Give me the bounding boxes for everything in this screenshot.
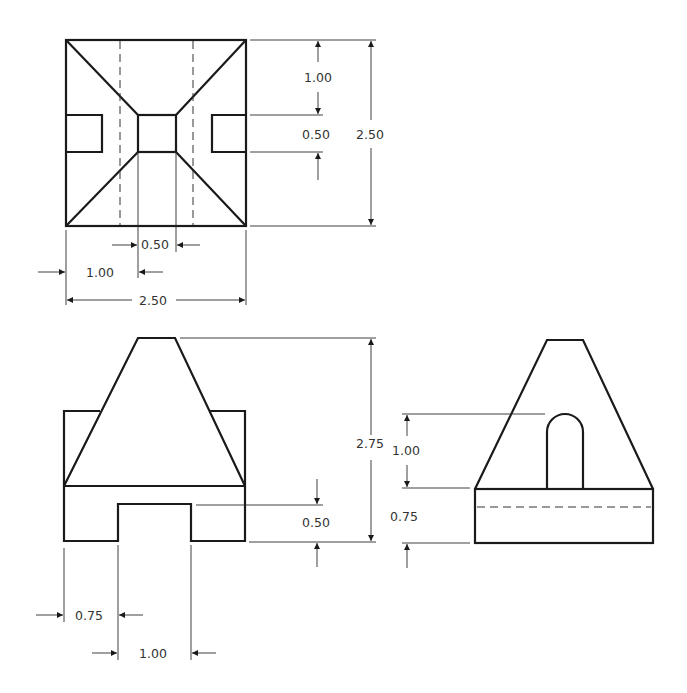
dim-side-slot-height: 1.00 [392, 443, 420, 458]
dim-front-notch-depth: 0.50 [302, 515, 330, 530]
top-view: 1.00 0.50 2.50 0.50 1.00 2.50 [38, 40, 384, 308]
dim-front-left-offset: 0.75 [75, 608, 103, 623]
top-view-edge [66, 40, 138, 115]
dim-top-overall-width: 2.50 [139, 293, 167, 308]
top-view-center-square [138, 115, 176, 152]
dim-top-upper-offset: 1.00 [304, 70, 332, 85]
dim-side-base-height: 0.75 [390, 509, 418, 524]
top-view-right-notch [212, 115, 246, 152]
dim-front-notch-width: 1.00 [139, 646, 167, 661]
dim-top-overall-height: 2.50 [356, 127, 384, 142]
dim-front-overall-height: 2.75 [356, 436, 384, 451]
dim-top-left-offset: 1.00 [86, 265, 114, 280]
top-view-left-notch [66, 115, 102, 152]
side-view-slot [547, 414, 583, 489]
top-view-edge [176, 40, 246, 115]
side-view-base [475, 489, 653, 543]
dim-top-slot-height: 0.50 [302, 127, 330, 142]
top-view-edge [176, 152, 246, 226]
top-view-edge [66, 152, 138, 226]
right-side-view: 1.00 0.75 [390, 340, 653, 568]
dim-top-center-width: 0.50 [141, 237, 169, 252]
front-view: 2.75 0.50 0.75 1.00 [36, 338, 384, 661]
technical-drawing: 1.00 0.50 2.50 0.50 1.00 2.50 [0, 0, 687, 693]
